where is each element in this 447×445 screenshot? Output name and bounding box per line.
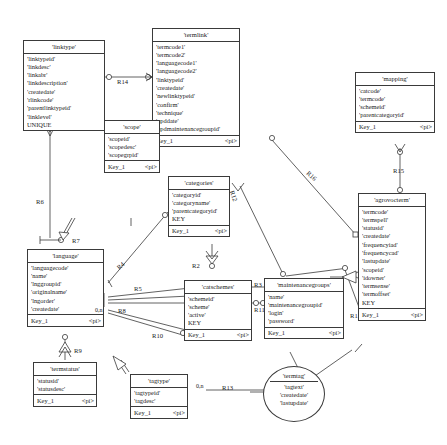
attribute: 'frequencycad' [362, 249, 424, 257]
key-type: <pi> [82, 396, 94, 405]
key-type: <pi> [411, 310, 423, 319]
attribute: 'catcode' [359, 87, 433, 95]
key-name: Key_1 [31, 316, 48, 325]
attribute: 'categoryname' [172, 199, 228, 207]
entity-scope-key: Key_1 <pi> [105, 160, 159, 172]
divider [270, 381, 318, 382]
attribute: 'termsense' [362, 282, 424, 290]
attribute: 'linkdesc' [27, 63, 103, 71]
cardinality-label: 0,n [196, 383, 204, 390]
entity-catschemes[interactable]: 'catschemes' 'schemeid' 'scheme' 'active… [184, 280, 252, 341]
relationship-label-r9: R9 [74, 347, 82, 355]
attribute: 'languagecode' [31, 264, 102, 272]
entity-maintenancegroups-key: Key_1 <pi> [265, 327, 343, 339]
entity-tagtype-key: Key_1 <pi> [131, 406, 187, 418]
entity-linktype[interactable]: 'linktype' 'linktypeid' 'linkdesc' 'link… [23, 40, 105, 131]
relationship-label-r6: R6 [36, 198, 44, 206]
key-name: Key_1 [362, 310, 379, 319]
attribute: 'languagecode1' [156, 59, 238, 67]
attribute: 'technique' [156, 109, 238, 117]
attribute: 'lastupdate' [362, 257, 424, 265]
relationship-label-r7: R7 [72, 237, 80, 245]
attribute: 'lastupdate' [264, 399, 324, 407]
entity-mapping-title: 'mapping' [356, 73, 434, 86]
attribute: 'newlinktypeid' [156, 92, 238, 100]
attribute: 'tagdesc' [134, 397, 186, 405]
key-type: <pi> [329, 328, 341, 337]
attribute: 'parentcategoryid' [172, 207, 228, 215]
attribute: 'createdate' [156, 84, 238, 92]
entity-categories-title: 'categories' [169, 177, 229, 190]
entity-tagtype[interactable]: 'tagtype' 'tagtypeid' 'tagdesc' Key_1 <p… [130, 374, 188, 419]
entity-categories-key: Key_1 <pi> [169, 225, 229, 237]
attribute: 'schemeid' [188, 295, 250, 303]
attribute: 'termspell' [362, 216, 424, 224]
entity-tagtype-attributes: 'tagtypeid' 'tagdesc' [131, 388, 187, 407]
entity-language-key: Key_1 <pi> [28, 314, 103, 326]
key-name: Key_1 [268, 328, 285, 337]
attribute: 'termoffset' [362, 290, 424, 298]
attribute: 'upddate' [156, 117, 238, 125]
cardinality-label: 0,n [95, 307, 103, 314]
entity-categories-attributes: 'categoryid' 'categoryname' 'parentcateg… [169, 190, 229, 225]
attribute: KEY [362, 299, 424, 307]
relationship-label-r11: R11 [254, 306, 265, 314]
attribute: 'lnggroupid' [31, 280, 102, 288]
attribute: 'tagtext' [264, 383, 324, 391]
entity-scope-title: 'scope' [105, 121, 159, 134]
entity-agrovocterm[interactable]: 'agrovocterm' 'termcode' 'termspell' 'st… [358, 193, 426, 321]
attribute: 'termcode' [359, 95, 433, 103]
attribute: 'termcode2' [156, 51, 238, 59]
attribute: 'createdate' [264, 391, 324, 399]
entity-termstatus[interactable]: 'termstatus' 'statusid' 'statusdesc' Key… [33, 362, 97, 407]
entity-maintenancegroups[interactable]: 'maintenancegroups' 'name' 'maintenanceg… [264, 278, 344, 339]
entity-language-title: 'language' [28, 250, 103, 263]
attribute: 'linktypeid' [27, 55, 103, 63]
attribute: 'linkabr' [27, 71, 103, 79]
entity-termtag[interactable]: 'termtag' 'tagtext' 'createdate' 'lastup… [263, 366, 325, 422]
attribute: KEY [172, 215, 228, 223]
key-type: <pi> [145, 162, 157, 171]
entity-scope-attributes: 'scopeid' 'scopedesc' 'scopegrpid' [105, 134, 159, 161]
attribute: 'maintenancegroupid' [268, 301, 342, 309]
relationship-label-r13: R13 [222, 384, 233, 392]
attribute: 'languagecode2' [156, 67, 238, 75]
entity-termlink[interactable]: 'termlink' 'termcode1' 'termcode2' 'lang… [152, 28, 240, 147]
entity-termlink-attributes: 'termcode1' 'termcode2' 'languagecode1' … [153, 42, 239, 135]
entity-termstatus-attributes: 'statusid' 'statusdesc' [34, 376, 96, 395]
entity-scope[interactable]: 'scope' 'scopeid' 'scopedesc' 'scopegrpi… [104, 120, 160, 173]
entity-tagtype-title: 'tagtype' [131, 375, 187, 388]
entity-linktype-attributes: 'linktypeid' 'linkdesc' 'linkabr' 'linkd… [24, 54, 104, 131]
attribute: 'name' [268, 293, 342, 301]
attribute: 'scopeid' [362, 266, 424, 274]
attribute: 'updmaintenancegroupid' [156, 125, 238, 133]
entity-categories[interactable]: 'categories' 'categoryid' 'categoryname'… [168, 176, 230, 237]
entity-linktype-title: 'linktype' [24, 41, 104, 54]
entity-maintenancegroups-attributes: 'name' 'maintenancegroupid' 'login' 'pas… [265, 292, 343, 327]
relationship-label-r1: R1 [350, 312, 358, 320]
entity-catschemes-key: Key_1 <pi> [185, 329, 251, 341]
key-name: Key_1 [37, 396, 54, 405]
entity-language[interactable]: 'language' 'languagecode' 'name' 'lnggro… [27, 249, 104, 327]
er-diagram-canvas: 'linktype' 'linktypeid' 'linkdesc' 'link… [0, 0, 447, 445]
entity-catschemes-title: 'catschemes' [185, 281, 251, 294]
attribute: 'linkdescription' [27, 79, 103, 87]
attribute: 'schemeid' [359, 103, 433, 111]
attribute: 'createdate' [362, 232, 424, 240]
attribute: 'parentcategoryid' [359, 111, 433, 119]
relationship-label-r4: R4 [115, 260, 126, 271]
key-name: Key_1 [188, 330, 205, 339]
attribute: 'scopegrpid' [108, 151, 158, 159]
attribute: 'categoryid' [172, 191, 228, 199]
attribute: 'tagtypeid' [134, 389, 186, 397]
entity-agrovocterm-key: Key_1 <pi> [359, 308, 425, 320]
key-type: <pi> [225, 136, 237, 145]
attribute: 'active' [188, 311, 250, 319]
key-name: Key_1 [172, 226, 189, 235]
attribute: 'createdate' [27, 88, 103, 96]
attribute: 'name' [31, 272, 102, 280]
entity-mapping[interactable]: 'mapping' 'catcode' 'termcode' 'schemeid… [355, 72, 435, 133]
attribute: 'idowner' [362, 274, 424, 282]
attribute: 'parentlinktypeid' [27, 104, 103, 112]
relationship-label-r15: R15 [393, 167, 404, 175]
